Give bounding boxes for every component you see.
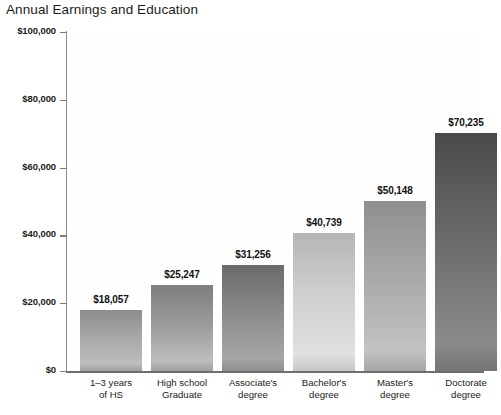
bar <box>80 310 142 371</box>
bar-value-label: $40,739 <box>306 217 341 228</box>
bar-value-label: $50,148 <box>377 185 412 196</box>
bar-value-label: $18,057 <box>93 294 128 305</box>
x-axis-category-label: Doctoratedegree <box>423 377 501 400</box>
x-axis-category-label-line: High school <box>157 377 207 388</box>
bar-group: $40,739 <box>293 217 355 371</box>
y-axis-tick-mark <box>60 32 67 33</box>
y-axis-tick-label: $40,000 <box>22 228 56 239</box>
y-axis-tick-mark <box>60 100 67 101</box>
bar-group: $70,235 <box>435 117 497 371</box>
bar-group: $50,148 <box>364 185 426 371</box>
x-axis-category-label-line: Master's <box>377 377 413 388</box>
x-axis-line <box>66 371 484 373</box>
x-axis-category-label-line: Associate's <box>229 377 277 388</box>
y-axis-tick-label: $60,000 <box>22 161 56 172</box>
chart-title: Annual Earnings and Education <box>6 2 198 17</box>
y-axis-tick-label: $100,000 <box>17 25 56 36</box>
bar-value-label: $31,256 <box>235 249 270 260</box>
y-axis-tick-mark <box>60 235 67 236</box>
y-axis-tick-label: $20,000 <box>22 296 56 307</box>
y-axis-tick-mark <box>60 303 67 304</box>
bar-group: $31,256 <box>222 249 284 371</box>
x-axis-category-label-line: Bachelor's <box>302 377 347 388</box>
x-axis-category-label-line: 1–3 years <box>90 377 132 388</box>
bar-group: $25,247 <box>151 269 213 371</box>
bar <box>364 201 426 371</box>
bar <box>293 233 355 371</box>
bar <box>222 265 284 371</box>
x-axis-category-label-line: Doctorate <box>445 377 487 388</box>
bar-value-label: $70,235 <box>448 117 483 128</box>
bar <box>435 133 497 371</box>
y-axis-tick-label: $0 <box>46 364 56 375</box>
bar <box>151 285 213 371</box>
x-axis-category-label-line: degree <box>423 389 501 401</box>
y-axis-tick-mark <box>60 168 67 169</box>
bar-group: $18,057 <box>80 294 142 371</box>
y-axis-tick-mark <box>60 371 67 372</box>
y-axis-tick-label: $80,000 <box>22 93 56 104</box>
bar-value-label: $25,247 <box>164 269 199 280</box>
